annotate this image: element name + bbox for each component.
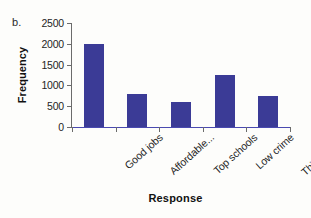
- bar-series: [72, 23, 290, 127]
- y-tick-label: 2500: [41, 17, 64, 29]
- y-tick-label: 1000: [41, 79, 64, 91]
- y-tick-label: 500: [47, 100, 64, 112]
- x-tick-label: Low crime: [253, 131, 296, 171]
- x-tick-label: Affordable...: [168, 131, 217, 177]
- bar: [215, 75, 235, 127]
- x-axis-title: Response: [0, 192, 311, 204]
- x-tick-mark: [290, 127, 291, 132]
- y-axis-title: Frequency: [16, 47, 28, 104]
- y-tick-label: 1500: [41, 59, 64, 71]
- plot-area: 05001000150020002500: [72, 23, 290, 127]
- x-tick-label: Things to do: [299, 131, 311, 178]
- bar: [171, 102, 191, 127]
- bar-chart-figure: b. Frequency 05001000150020002500 Good j…: [0, 0, 311, 218]
- bar: [84, 44, 104, 127]
- bar: [127, 94, 147, 127]
- x-axis-line: [71, 127, 290, 128]
- y-tick-label: 2000: [41, 38, 64, 50]
- panel-label: b.: [12, 17, 22, 28]
- y-tick-label: 0: [58, 121, 64, 133]
- x-tick-label: Good jobs: [122, 131, 165, 171]
- x-tick-label: Top schools: [211, 131, 259, 176]
- x-axis-category-labels: Good jobsAffordable...Top schoolsLow cri…: [72, 131, 290, 189]
- bar: [258, 96, 278, 127]
